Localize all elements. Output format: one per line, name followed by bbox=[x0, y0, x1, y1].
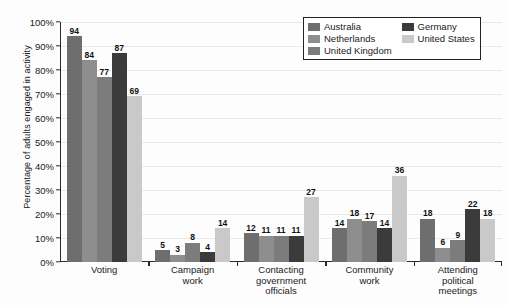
bar[interactable] bbox=[170, 255, 185, 262]
y-axis-tick-mark bbox=[56, 237, 60, 238]
bar[interactable] bbox=[392, 176, 407, 262]
y-axis-tick-mark bbox=[56, 141, 60, 142]
bar-value-label: 77 bbox=[99, 68, 108, 77]
legend-label: Australia bbox=[324, 21, 361, 32]
legend-item[interactable]: Netherlands bbox=[308, 33, 392, 44]
bar[interactable] bbox=[420, 219, 435, 262]
bar-value-label: 14 bbox=[218, 219, 227, 228]
x-axis-category-label-line: work bbox=[148, 276, 236, 287]
bar-column[interactable]: 94 bbox=[67, 22, 82, 262]
bar[interactable] bbox=[155, 250, 170, 262]
bar[interactable] bbox=[347, 219, 362, 262]
bar-column[interactable]: 84 bbox=[82, 22, 97, 262]
bar-column[interactable]: 69 bbox=[127, 22, 142, 262]
legend: AustraliaNetherlandsUnited Kingdom Germa… bbox=[303, 17, 481, 60]
x-axis-category-label-line: Attending bbox=[414, 265, 502, 276]
legend-item[interactable]: Australia bbox=[308, 21, 392, 32]
y-axis-tick-mark bbox=[56, 45, 60, 46]
y-axis-tick-mark bbox=[56, 165, 60, 166]
legend-label: United States bbox=[418, 33, 475, 44]
bar-group-bars: 538414 bbox=[155, 22, 230, 262]
legend-swatch bbox=[308, 35, 320, 43]
bar-value-label: 11 bbox=[262, 226, 271, 235]
bar-value-label: 18 bbox=[423, 209, 432, 218]
bar[interactable] bbox=[289, 236, 304, 262]
bar[interactable] bbox=[244, 233, 259, 262]
legend-item[interactable]: United States bbox=[402, 33, 475, 44]
bar-value-label: 17 bbox=[365, 212, 374, 221]
bar[interactable] bbox=[112, 53, 127, 262]
bar[interactable] bbox=[274, 236, 289, 262]
bar-column[interactable]: 8 bbox=[185, 22, 200, 262]
bar-value-label: 8 bbox=[190, 233, 195, 242]
legend-label: Germany bbox=[418, 21, 457, 32]
bar[interactable] bbox=[97, 77, 112, 262]
bar[interactable] bbox=[67, 36, 82, 262]
bar-value-label: 5 bbox=[160, 241, 165, 250]
bar[interactable] bbox=[127, 96, 142, 262]
legend-column-right: GermanyUnited States bbox=[402, 21, 475, 56]
bar-value-label: 18 bbox=[483, 209, 492, 218]
legend-column-left: AustraliaNetherlandsUnited Kingdom bbox=[308, 21, 392, 56]
bar-value-label: 12 bbox=[246, 224, 255, 233]
x-axis-labels: VotingCampaignworkContactinggovernmentof… bbox=[60, 265, 502, 297]
x-axis-category-label: Campaignwork bbox=[148, 265, 236, 297]
bar-value-label: 6 bbox=[440, 238, 445, 247]
bar-column[interactable]: 11 bbox=[289, 22, 304, 262]
bar-column[interactable]: 4 bbox=[200, 22, 215, 262]
bar[interactable] bbox=[377, 228, 392, 262]
y-axis-tick-mark bbox=[56, 117, 60, 118]
x-axis-category-label: Communitywork bbox=[325, 265, 413, 297]
x-axis-category-label: Attendingpoliticalmeetings bbox=[414, 265, 502, 297]
bar-value-label: 36 bbox=[395, 166, 404, 175]
legend-swatch bbox=[308, 23, 320, 31]
bar[interactable] bbox=[259, 236, 274, 262]
bar-value-label: 4 bbox=[205, 243, 210, 252]
bar-value-label: 69 bbox=[129, 87, 138, 96]
y-axis-tick-mark bbox=[56, 189, 60, 190]
y-axis-tick-mark bbox=[56, 213, 60, 214]
bar-group: 9484778769 bbox=[60, 22, 148, 262]
bar-column[interactable]: 18 bbox=[480, 22, 495, 262]
legend-label: United Kingdom bbox=[324, 45, 392, 56]
bar[interactable] bbox=[332, 228, 347, 262]
bar[interactable] bbox=[200, 252, 215, 262]
x-axis-category-label: Voting bbox=[60, 265, 148, 297]
legend-swatch bbox=[402, 35, 414, 43]
bar-column[interactable]: 14 bbox=[215, 22, 230, 262]
bar-group-bars: 9484778769 bbox=[67, 22, 142, 262]
x-axis-category-label-line: Campaign bbox=[148, 265, 236, 276]
legend-swatch bbox=[402, 23, 414, 31]
bar-value-label: 11 bbox=[277, 226, 286, 235]
bar[interactable] bbox=[185, 243, 200, 262]
y-axis-title: Percentage of adults engaged in activity bbox=[22, 7, 32, 247]
x-axis-category-label: Contactinggovernmentofficials bbox=[237, 265, 325, 297]
bar-column[interactable]: 5 bbox=[155, 22, 170, 262]
bar[interactable] bbox=[215, 228, 230, 262]
bar-value-label: 18 bbox=[350, 209, 359, 218]
bar-value-label: 14 bbox=[380, 219, 389, 228]
y-axis-tick-mark bbox=[56, 261, 60, 262]
legend-item[interactable]: Germany bbox=[402, 21, 475, 32]
legend-label: Netherlands bbox=[324, 33, 375, 44]
legend-swatch bbox=[308, 47, 320, 55]
bar-column[interactable]: 11 bbox=[259, 22, 274, 262]
bar[interactable] bbox=[435, 248, 450, 262]
bar-column[interactable]: 87 bbox=[112, 22, 127, 262]
x-axis-category-label-line: Voting bbox=[60, 265, 148, 276]
bar-column[interactable]: 3 bbox=[170, 22, 185, 262]
bar-column[interactable]: 77 bbox=[97, 22, 112, 262]
bar[interactable] bbox=[304, 197, 319, 262]
bar-value-label: 14 bbox=[335, 219, 344, 228]
legend-item[interactable]: United Kingdom bbox=[308, 45, 392, 56]
bar-column[interactable]: 12 bbox=[244, 22, 259, 262]
x-axis-category-label-line: meetings bbox=[414, 286, 502, 297]
bar[interactable] bbox=[450, 240, 465, 262]
bar[interactable] bbox=[465, 209, 480, 262]
bar-column[interactable]: 11 bbox=[274, 22, 289, 262]
bar[interactable] bbox=[82, 60, 97, 262]
bar-group: 538414 bbox=[148, 22, 236, 262]
x-axis-category-label-line: Community bbox=[325, 265, 413, 276]
bar[interactable] bbox=[480, 219, 495, 262]
bar[interactable] bbox=[362, 221, 377, 262]
